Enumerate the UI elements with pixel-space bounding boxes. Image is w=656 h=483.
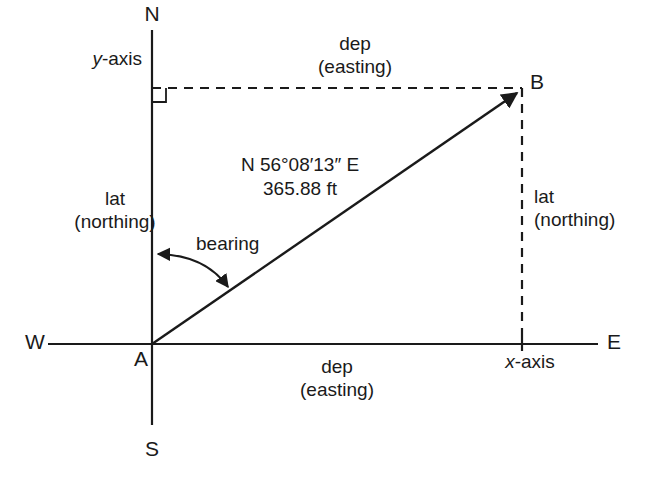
x-axis-label-symbol: x [505, 351, 515, 372]
latitude-label-left: lat [105, 187, 125, 210]
latitude-sublabel-right: (northing) [534, 208, 615, 231]
compass-label-south: S [145, 437, 159, 460]
course-line-ab [152, 93, 517, 344]
y-axis-label-symbol: y [92, 48, 102, 69]
point-label-b: B [530, 70, 544, 93]
right-angle-marker [152, 88, 166, 102]
point-label-a: A [134, 347, 148, 370]
x-axis-label: x-axis [505, 350, 555, 373]
latitude-label-right: lat [534, 185, 554, 208]
bearing-angle-arc [158, 254, 228, 287]
departure-sublabel-bottom: (easting) [300, 378, 374, 401]
survey-bearing-diagram: N S E W y-axis x-axis A B N 56°08′13″ E … [0, 0, 656, 483]
compass-label-east: E [607, 330, 621, 353]
departure-label-bottom: dep [321, 355, 353, 378]
departure-label-top: dep [339, 32, 371, 55]
latitude-sublabel-left: (northing) [74, 210, 155, 233]
compass-label-west: W [25, 330, 45, 353]
course-distance-label: 365.88 ft [263, 177, 337, 200]
y-axis-label-suffix: -axis [102, 48, 142, 69]
departure-sublabel-top: (easting) [318, 55, 392, 78]
y-axis-label: y-axis [92, 47, 142, 70]
compass-label-north: N [144, 2, 159, 25]
x-axis-label-suffix: -axis [515, 351, 555, 372]
bearing-arc-label: bearing [196, 232, 259, 255]
course-bearing-label: N 56°08′13″ E [241, 153, 359, 176]
